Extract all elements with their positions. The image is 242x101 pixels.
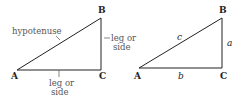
left-vertex-b: B [98,5,106,15]
vertical-leg-label-line2: side [113,42,131,52]
right-triangle-diagram: A B C hypotenuse leg or side leg or side… [0,0,242,101]
left-triangle: A B C hypotenuse leg or side leg or side [10,5,137,97]
left-vertex-c: C [99,71,106,81]
left-vertex-a: A [10,71,19,81]
horizontal-leg-label-line2: side [51,87,69,97]
side-c-label: c [177,32,182,42]
right-vertex-a: A [133,71,142,81]
hypotenuse-label: hypotenuse [12,26,62,36]
right-triangle: A B C c a b [133,5,232,81]
side-a-label: a [227,38,232,48]
right-vertex-b: B [219,5,227,15]
hypotenuse-pointer [56,36,60,40]
side-b-label: b [178,71,184,81]
right-triangle-shape [139,18,222,68]
right-vertex-c: C [220,71,227,81]
